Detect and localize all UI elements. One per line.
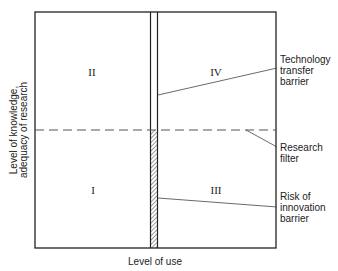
annotation-research-filter: Research filter: [280, 142, 323, 164]
annotation-line: Research: [280, 142, 323, 153]
annotation-line: transfer: [280, 65, 315, 76]
quadrant-label-ii: II: [88, 66, 96, 78]
y-axis-label-line2: adequacy of research: [18, 82, 29, 178]
annotation-line: filter: [280, 153, 300, 164]
quadrant-label-i: I: [91, 184, 95, 196]
quadrant-label-iv: IV: [210, 66, 222, 78]
quadrant-label-iii: III: [211, 184, 222, 196]
x-axis-label: Level of use: [128, 256, 182, 267]
annotation-risk-of-innovation: Risk of innovation barrier: [280, 191, 326, 224]
annotation-line: Risk of: [280, 191, 311, 202]
annotation-line: Technology: [280, 54, 331, 65]
y-axis-label: Level of knowledge, adequacy of research: [8, 82, 29, 178]
annotation-line: barrier: [280, 213, 310, 224]
annotation-line: barrier: [280, 76, 310, 87]
leader-research-filter: [246, 130, 277, 147]
quadrant-diagram: II IV I III Level of use Level of knowle…: [0, 0, 338, 271]
leader-risk-of-innovation: [158, 198, 277, 207]
innovation-barrier-hatch: [151, 130, 158, 248]
annotation-line: innovation: [280, 202, 326, 213]
annotation-technology-transfer: Technology transfer barrier: [280, 54, 331, 87]
